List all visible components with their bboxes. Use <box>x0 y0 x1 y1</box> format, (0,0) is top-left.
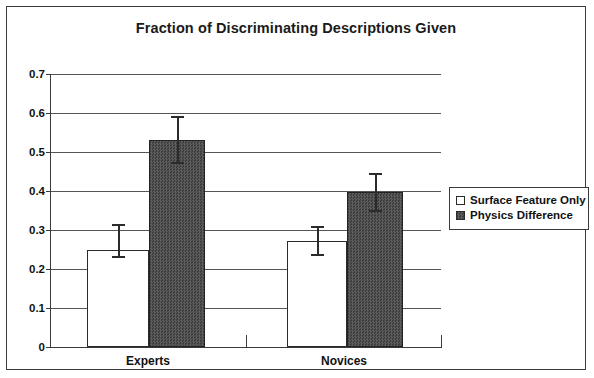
y-tick-mark <box>46 191 51 192</box>
y-tick-mark <box>46 269 51 270</box>
errorbar-cap-bottom <box>112 256 125 258</box>
errorbar-cap-top <box>311 226 324 228</box>
errorbar-cap-bottom <box>369 210 382 212</box>
chart-title: Fraction of Discriminating Descriptions … <box>7 20 585 36</box>
y-tick-mark <box>46 230 51 231</box>
errorbar-line <box>118 224 120 258</box>
bar-novices-physics-difference[interactable] <box>347 192 403 347</box>
x-axis-divider <box>441 335 442 347</box>
legend-label: Surface Feature Only <box>470 194 586 206</box>
x-axis-divider <box>50 335 51 347</box>
y-tick-label: 0.4 <box>11 185 45 197</box>
errorbar-experts-physics-difference <box>171 116 184 164</box>
x-axis-line <box>50 347 442 348</box>
y-tick-mark <box>46 113 51 114</box>
gridline-0.6 <box>50 113 441 114</box>
y-tick-mark <box>46 74 51 75</box>
y-tick-mark <box>46 152 51 153</box>
errorbar-novices-physics-difference <box>369 173 382 212</box>
errorbar-cap-bottom <box>171 162 184 164</box>
chart-legend: Surface Feature Only Physics Difference <box>449 187 589 230</box>
x-category-label-experts: Experts <box>126 354 170 368</box>
gridline-0.7 <box>50 74 441 75</box>
bar-novices-surface-feature-only[interactable] <box>287 241 347 347</box>
x-category-label-novices: Novices <box>321 354 367 368</box>
y-tick-label: 0.5 <box>11 146 45 158</box>
x-axis: Experts Novices <box>50 347 442 377</box>
gridline-0.5 <box>50 152 441 153</box>
errorbar-line <box>375 173 377 212</box>
plot-area <box>50 74 441 347</box>
y-tick-label: 0.2 <box>11 263 45 275</box>
y-tick-mark <box>46 308 51 309</box>
errorbar-cap-top <box>112 224 125 226</box>
y-axis-tick-labels: 0.7 0.6 0.5 0.4 0.3 0.2 0.1 0 <box>7 74 45 348</box>
legend-label: Physics Difference <box>470 209 573 221</box>
y-tick-label: 0.7 <box>11 68 45 80</box>
errorbar-cap-bottom <box>311 254 324 256</box>
errorbar-line <box>177 116 179 164</box>
y-tick-label: 0.6 <box>11 107 45 119</box>
errorbar-experts-surface-feature-only <box>112 224 125 258</box>
y-tick-label: 0.1 <box>11 302 45 314</box>
x-axis-divider <box>246 335 247 347</box>
errorbar-line <box>317 226 319 256</box>
y-tick-label: 0 <box>11 341 45 353</box>
errorbar-cap-top <box>171 116 184 118</box>
hollow-square-icon <box>456 196 465 205</box>
filled-square-icon <box>456 211 465 220</box>
bar-experts-surface-feature-only[interactable] <box>87 250 149 347</box>
legend-item-physics-difference[interactable]: Physics Difference <box>456 209 583 221</box>
chart-frame: Fraction of Discriminating Descriptions … <box>6 6 586 370</box>
errorbar-cap-top <box>369 173 382 175</box>
bar-experts-physics-difference[interactable] <box>149 140 205 347</box>
errorbar-novices-surface-feature-only <box>311 226 324 256</box>
y-tick-label: 0.3 <box>11 224 45 236</box>
legend-item-surface-feature-only[interactable]: Surface Feature Only <box>456 194 583 206</box>
